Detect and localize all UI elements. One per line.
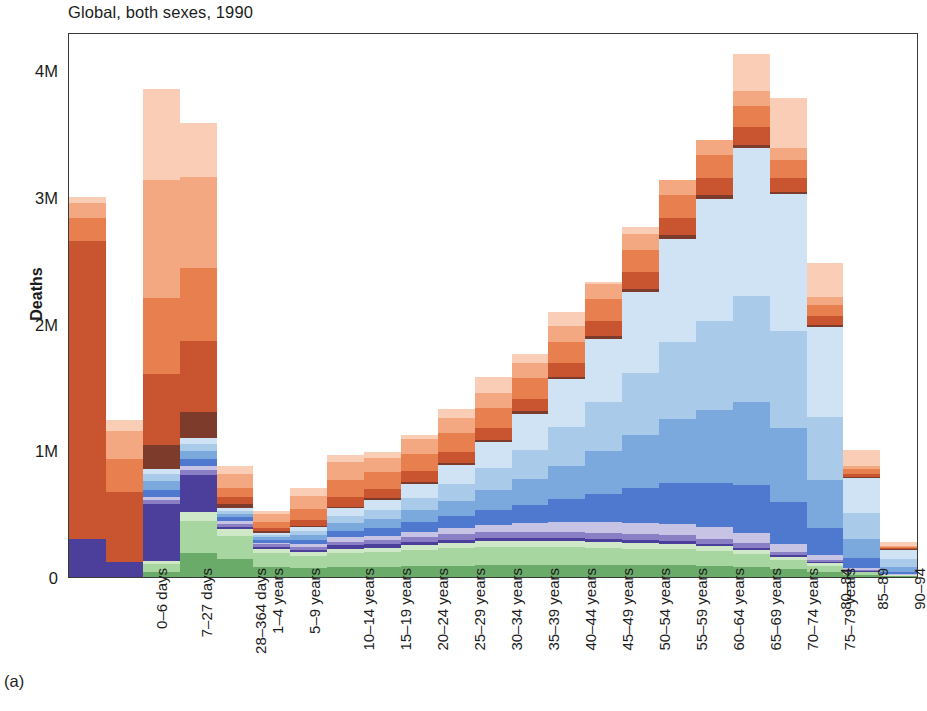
x-axis-tick-label: 10–14 years <box>360 568 377 651</box>
bar-segment-light-blue-layer <box>180 444 217 451</box>
bar-segment-pale-peach-layer <box>180 123 217 176</box>
bar-segment-light-salmon-layer <box>807 297 844 305</box>
bar-segment-medium-blue-layer <box>622 435 659 488</box>
bar-column[interactable] <box>180 34 217 577</box>
bar-column[interactable] <box>106 34 143 577</box>
bar-segment-medium-blue-layer <box>770 428 807 503</box>
bar-segment-pale-blue-layer <box>770 194 807 331</box>
bar-column[interactable] <box>807 34 844 577</box>
bar-segment-light-blue-layer <box>770 331 807 427</box>
bar-segment-pale-peach-layer <box>733 54 770 91</box>
bar-segment-light-salmon-layer <box>106 431 143 459</box>
bar-column[interactable] <box>696 34 733 577</box>
bar-column[interactable] <box>770 34 807 577</box>
bar-segment-royal-blue-layer <box>733 485 770 533</box>
bar-segment-light-green-layer <box>622 549 659 565</box>
bar-stack <box>843 450 880 577</box>
bar-segment-light-blue-layer <box>401 498 438 510</box>
panel-label: (a) <box>4 672 24 691</box>
x-axis-tick-10: 35–39 years <box>545 568 562 651</box>
bar-segment-light-salmon-layer <box>217 474 254 488</box>
bar-segment-royal-blue-layer <box>438 516 475 528</box>
bar-stack <box>622 227 659 577</box>
bar-segment-royal-blue-layer <box>807 528 844 555</box>
bar-segment-light-green-layer <box>475 547 512 565</box>
bar-segment-light-salmon-layer <box>512 363 549 378</box>
bar-segment-light-blue-layer <box>880 559 917 566</box>
bar-segment-light-green-layer <box>696 551 733 566</box>
x-axis-tick-1: 7–27 days <box>199 568 216 637</box>
bar-segment-light-salmon-layer <box>659 180 696 196</box>
bar-column[interactable] <box>512 34 549 577</box>
bar-segment-light-blue-layer <box>843 513 880 538</box>
bar-segment-mid-orange-layer <box>622 250 659 273</box>
bars-layer <box>69 34 917 577</box>
bar-column[interactable] <box>585 34 622 577</box>
x-axis-tick-5: 10–14 years <box>360 568 377 651</box>
bar-column[interactable] <box>548 34 585 577</box>
bar-segment-light-blue-layer <box>733 296 770 401</box>
bar-segment-royal-blue-layer <box>843 558 880 568</box>
bar-segment-dark-orange-layer <box>401 471 438 481</box>
bar-column[interactable] <box>327 34 364 577</box>
bar-column[interactable] <box>880 34 917 577</box>
bar-segment-pale-green-layer <box>217 529 254 536</box>
bar-segment-light-green-layer <box>401 550 438 566</box>
bar-segment-pale-blue-layer <box>880 550 917 560</box>
x-axis-tick-4: 5–9 years <box>306 568 323 634</box>
bar-segment-medium-blue-layer <box>401 510 438 522</box>
bar-segment-mid-orange-layer <box>733 106 770 128</box>
bar-segment-light-salmon-layer <box>364 458 401 472</box>
bar-segment-mid-orange-layer <box>180 268 217 342</box>
bar-segment-dark-orange-layer <box>807 316 844 325</box>
bar-segment-pale-peach-layer <box>290 488 327 496</box>
bar-segment-light-green-layer <box>217 536 254 559</box>
bar-segment-pale-peach-layer <box>548 312 585 326</box>
bar-column[interactable] <box>253 34 290 577</box>
bar-column[interactable] <box>364 34 401 577</box>
x-axis-tick-8: 25–29 years <box>471 568 488 651</box>
bar-segment-pale-peach-layer <box>807 263 844 297</box>
bar-column[interactable] <box>733 34 770 577</box>
bar-column[interactable] <box>475 34 512 577</box>
x-axis-tick-0: 0–6 days <box>153 568 170 629</box>
bar-segment-mid-orange-layer <box>548 342 585 363</box>
bar-stack <box>438 409 475 577</box>
bar-segment-light-salmon-layer <box>327 462 364 481</box>
bar-stack <box>217 466 254 577</box>
bar-segment-royal-blue-layer <box>180 459 217 467</box>
bar-column[interactable] <box>659 34 696 577</box>
bar-segment-pale-lavender-layer <box>622 523 659 534</box>
bar-segment-royal-blue-layer <box>475 510 512 525</box>
bar-segment-dark-orange-layer <box>106 492 143 562</box>
y-axis-tick-0: 0 <box>49 569 58 588</box>
chart-title: Global, both sexes, 1990 <box>68 3 253 22</box>
y-axis-tick-1: 1M <box>35 442 58 461</box>
bar-segment-dark-orange-layer <box>512 399 549 412</box>
bar-column[interactable] <box>401 34 438 577</box>
bar-segment-royal-blue-layer <box>585 494 622 523</box>
bar-column[interactable] <box>438 34 475 577</box>
bar-column[interactable] <box>622 34 659 577</box>
bar-column[interactable] <box>69 34 106 577</box>
bar-stack <box>548 312 585 577</box>
bar-segment-light-salmon-layer <box>438 418 475 432</box>
bar-segment-light-blue-layer <box>548 427 585 465</box>
bar-segment-mid-orange-layer <box>770 160 807 177</box>
bar-column[interactable] <box>143 34 180 577</box>
bar-segment-pale-blue-layer <box>475 442 512 468</box>
bar-segment-dark-purple-layer <box>143 504 180 561</box>
x-axis-tick-19: 80–84 <box>836 568 853 610</box>
bar-column[interactable] <box>843 34 880 577</box>
bar-stack <box>327 455 364 577</box>
bar-column[interactable] <box>217 34 254 577</box>
bar-segment-medium-blue-layer <box>327 523 364 531</box>
bar-segment-royal-blue-layer <box>401 522 438 532</box>
bar-segment-light-salmon-layer <box>180 177 217 268</box>
bar-stack <box>364 452 401 577</box>
x-axis-tick-15: 60–64 years <box>729 568 746 651</box>
bar-stack <box>770 98 807 577</box>
bar-column[interactable] <box>290 34 327 577</box>
bar-segment-medium-blue-layer <box>512 479 549 505</box>
x-axis-tick-label: 25–29 years <box>471 568 488 651</box>
